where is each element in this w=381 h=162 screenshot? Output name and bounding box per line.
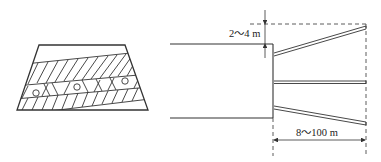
anchor-upper [274, 26, 366, 56]
anchor-hole-icon [122, 78, 128, 84]
figure: 2～4 m 8～100 m [0, 0, 381, 162]
hatch-lower-band [22, 88, 138, 110]
dimension-label-vertical: 2～4 m [229, 29, 260, 40]
dimension-label-horizontal: 8～100 m [296, 128, 338, 139]
anchor-hole-icon [33, 90, 39, 96]
anchor-hole-icon [74, 84, 80, 90]
anchor-middle [274, 81, 366, 84]
slope-cross-section [15, 45, 150, 111]
anchor-lower [274, 106, 366, 125]
